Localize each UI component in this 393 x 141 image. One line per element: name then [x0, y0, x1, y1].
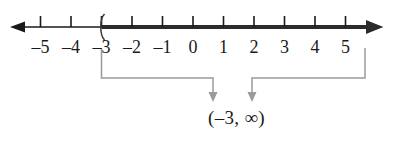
tick-label--4: –4 [54, 38, 88, 56]
tick-label-3: 3 [268, 38, 302, 56]
leader-arrow-left-icon [209, 92, 218, 102]
interval-notation-label: (–3, ∞) [40, 108, 393, 127]
tick-label-1: 1 [207, 38, 241, 56]
tick-label--1: –1 [146, 38, 180, 56]
solution-ray-arrowhead-icon [366, 20, 383, 34]
tick-label--2: –2 [115, 38, 149, 56]
tick-label--5: –5 [24, 38, 58, 56]
number-line-figure: –5 –4 –3 –2 –1 0 1 2 3 4 5 (–3, ∞) [0, 0, 393, 141]
leader-arrow-right-icon [248, 92, 257, 102]
tick-label-2: 2 [237, 38, 271, 56]
tick-label--3: –3 [85, 38, 119, 56]
arrow-left-icon [10, 22, 25, 33]
tick-label-5: 5 [329, 38, 363, 56]
tick-label-4: 4 [298, 38, 332, 56]
tick-label-0: 0 [176, 38, 210, 56]
